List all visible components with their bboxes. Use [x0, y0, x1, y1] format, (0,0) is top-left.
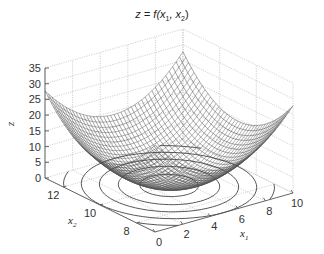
z-axis-ticks: 05101520253035	[29, 62, 41, 184]
tick-label: 10	[29, 141, 41, 153]
tick-label: 10	[84, 207, 96, 219]
tick-label: 15	[29, 125, 41, 137]
surface-mesh	[45, 52, 293, 191]
tick-label: 35	[29, 62, 41, 74]
tick-label: 12	[47, 189, 59, 201]
tick-label: 20	[29, 109, 41, 121]
tick-label: 4	[211, 220, 217, 232]
tick-label: 6	[239, 213, 245, 225]
tick-label: 5	[35, 156, 41, 168]
x1-axis-label: x1	[239, 227, 248, 242]
surface-plot: z = f(x1, x2) 05101520253035 81012 02468…	[0, 0, 324, 254]
tick-label: 8	[266, 205, 272, 217]
tick-label: 0	[35, 172, 41, 184]
chart-title: z = f(x1, x2)	[134, 8, 188, 22]
tick-label: 30	[29, 78, 41, 90]
tick-label: 8	[124, 225, 130, 237]
x2-axis-label: x2	[67, 214, 77, 229]
x2-axis-ticks: 81012	[47, 189, 130, 237]
tick-label: 0	[156, 236, 162, 248]
tick-label: 25	[29, 93, 41, 105]
z-axis-label: z	[4, 121, 16, 127]
tick-label: 10	[291, 197, 303, 209]
tick-label: 2	[184, 228, 190, 240]
